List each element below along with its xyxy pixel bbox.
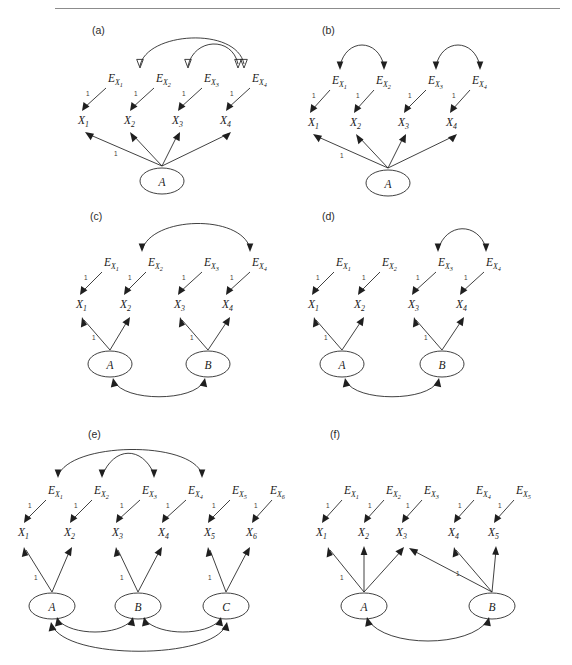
error-label-ex1: EX1 — [107, 72, 123, 88]
latent-node-b: B — [420, 351, 464, 377]
coef-a-x1: 1 — [340, 152, 344, 159]
indicator-label-x5: X5 — [487, 526, 499, 541]
arrowhead-ex1 — [337, 61, 344, 70]
path-a-x2 — [52, 550, 70, 592]
panel-a-error-paths: 1 1 1 1 — [82, 88, 250, 111]
coef-ex4: 1 — [458, 502, 462, 509]
path-a-x2 — [358, 136, 388, 168]
coef-a-x1: 1 — [34, 574, 38, 581]
arrowhead-x4 — [162, 514, 169, 523]
arrowhead-a — [343, 378, 351, 388]
arrowhead-ex2 — [137, 59, 144, 68]
panel-f-error-paths: 1 1 1 1 1 — [322, 500, 514, 523]
arc-ex2-ex4 — [140, 38, 244, 66]
indicator-label-x3: X3 — [173, 298, 185, 313]
panel-e-latent-correlation-arcs — [49, 617, 230, 651]
path-b-x3 — [182, 320, 208, 350]
error-label-ex4: EX4 — [187, 484, 203, 500]
coef-c-x5: 1 — [208, 574, 212, 581]
latent-node-b: B — [115, 593, 161, 619]
coef-a-x1: 1 — [92, 334, 96, 341]
latent-label-b: B — [204, 359, 211, 371]
arc-ex1-ex2 — [340, 45, 384, 66]
error-label-ex5: EX5 — [515, 484, 531, 500]
arc-a-c — [52, 625, 226, 651]
indicator-label-x4: X4 — [447, 526, 459, 541]
error-label-ex3: EX3 — [203, 72, 219, 88]
latent-label-c: C — [222, 601, 230, 613]
panel-c-latent-paths: 1 1 — [81, 317, 230, 350]
path-a-x2 — [132, 134, 162, 166]
panel-c-label: (c) — [90, 210, 102, 222]
indicator-label-x4: X4 — [445, 116, 457, 131]
path-b-x3 — [412, 550, 492, 592]
coef-ex4: 1 — [452, 92, 456, 99]
indicator-label-x2: X2 — [353, 298, 365, 313]
latent-label-b: B — [134, 601, 141, 613]
coef-ex1: 1 — [84, 274, 88, 281]
coef-b-x3: 1 — [120, 574, 124, 581]
error-label-ex2: EX2 — [155, 72, 171, 88]
path-b-x4 — [138, 550, 160, 592]
panel-e-error-paths: 1 1 1 1 1 1 — [24, 500, 272, 523]
arrowhead-a-x1 — [313, 134, 322, 142]
coef-ex4: 1 — [230, 90, 234, 97]
path-a-x1 — [316, 320, 342, 350]
indicator-label-x2: X2 — [119, 298, 131, 313]
indicator-label-x1: X1 — [75, 298, 87, 313]
panel-f: (f) EX1 EX2 EX3 EX4 EX5 — [316, 428, 566, 665]
error-label-ex3: EX3 — [423, 484, 439, 500]
coef-ex3: 1 — [406, 502, 410, 509]
coef-ex3: 1 — [120, 502, 124, 509]
latent-node-a: A — [366, 170, 410, 196]
panel-c-latent-correlation-arc — [111, 378, 207, 397]
latent-node-a: A — [320, 351, 364, 377]
panel-e: (e) EX1 EX2 EX3 EX4 — [14, 428, 286, 665]
latent-label-b: B — [438, 359, 445, 371]
indicator-label-x1: X1 — [315, 526, 327, 541]
indicator-label-x5: X5 — [203, 526, 215, 541]
arrowhead-ex3 — [433, 61, 440, 70]
arrowhead-a-x2 — [356, 134, 364, 144]
coef-ex2: 1 — [368, 502, 372, 509]
arrowhead-ex3 — [151, 469, 158, 478]
arrowhead-ex4 — [199, 469, 206, 478]
latent-node-a: A — [140, 168, 184, 194]
path-b-x4 — [208, 320, 228, 350]
error-label-ex1: EX1 — [47, 484, 63, 500]
coef-ex4: 1 — [230, 274, 234, 281]
arrowhead-a-x2 — [361, 546, 368, 555]
arc-ex2-ex3 — [102, 453, 154, 476]
arrowhead-ex3 — [185, 59, 192, 68]
arrowhead-ex2 — [381, 61, 388, 70]
error-label-ex2: EX2 — [381, 256, 397, 272]
indicator-label-x2: X2 — [357, 526, 369, 541]
path-b-x3 — [416, 320, 442, 350]
indicator-label-x3: X3 — [171, 114, 183, 129]
arrowhead-ex3 — [435, 243, 442, 252]
coef-a-x1: 1 — [340, 574, 344, 581]
error-label-ex2: EX2 — [93, 484, 109, 500]
indicator-label-x3: X3 — [395, 526, 407, 541]
error-label-ex4: EX4 — [475, 484, 491, 500]
latent-label-a: A — [47, 601, 56, 613]
arrowhead-b-x4 — [456, 317, 464, 326]
path-a-x2 — [342, 320, 362, 350]
coef-ex3: 1 — [408, 92, 412, 99]
panel-d: (d) EX1 EX2 EX3 EX4 — [308, 210, 520, 402]
coef-b-x3: 1 — [456, 570, 460, 577]
arc-ex2-ex4 — [142, 223, 250, 250]
indicator-label-x2: X2 — [349, 116, 361, 131]
panel-b-error-correlation-arcs — [337, 45, 484, 70]
path-b-x5 — [492, 550, 496, 592]
panel-e-error-correlation-arcs — [55, 449, 206, 478]
arrowhead-c-x6 — [243, 547, 251, 556]
latent-node-b: B — [469, 593, 515, 619]
error-label-ex4: EX4 — [251, 256, 267, 272]
arrowhead-x1 — [82, 102, 90, 111]
arrowhead-b-x4 — [155, 547, 163, 556]
indicator-label-x1: X1 — [77, 114, 89, 129]
arrowhead-ac-c — [222, 622, 230, 631]
path-a-x1 — [330, 550, 364, 592]
coef-a-x1: 1 — [324, 334, 328, 341]
